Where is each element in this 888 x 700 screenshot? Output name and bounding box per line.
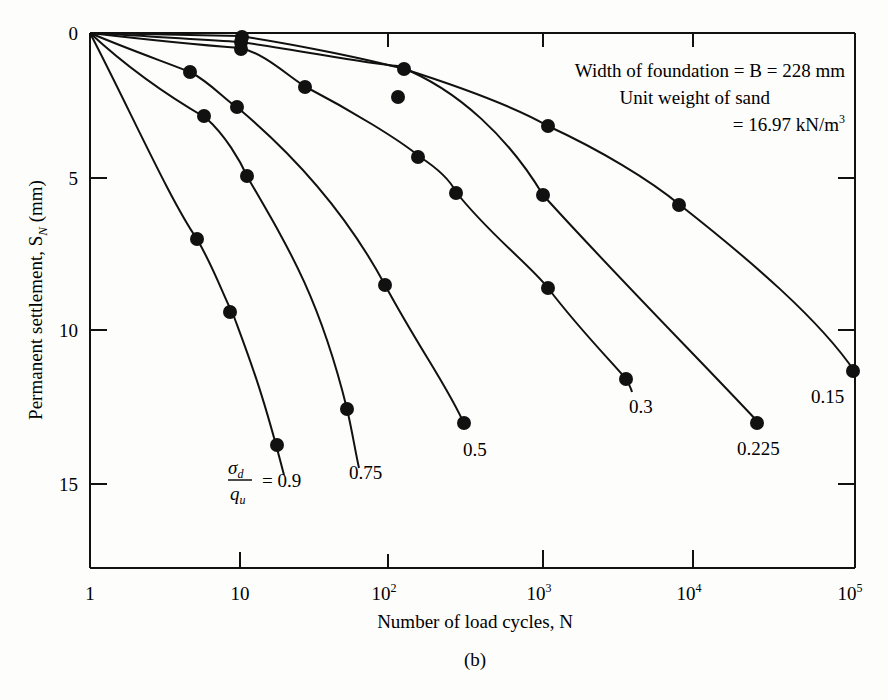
annotation-width: Width of foundation = B = 228 mm (575, 60, 846, 81)
point-0.15-1 (235, 30, 249, 44)
y-tick-10: 10 (59, 320, 78, 341)
point-0.5-3 (378, 278, 392, 292)
settlement-chart: 1 10 102 103 104 105 0 5 10 15 Number of… (0, 0, 888, 700)
y-tick-15: 15 (59, 474, 78, 495)
point-0.9-1 (190, 232, 204, 246)
y-tick-5: 5 (69, 168, 79, 189)
curve-label-0.9: = 0.9 (262, 470, 301, 491)
point-0.5-2 (230, 100, 244, 114)
curve-0.9 (90, 33, 284, 475)
point-0.225-3 (536, 188, 550, 202)
point-0.3-4 (449, 186, 463, 200)
point-0.75-2 (240, 169, 254, 183)
point-0.15-2 (397, 62, 411, 76)
x-tick-1e3: 103 (527, 581, 552, 604)
point-0.15-4 (672, 198, 686, 212)
curve-label-0.225: 0.225 (737, 438, 780, 459)
curve-label-0.5: 0.5 (463, 439, 487, 460)
point-0.225-2 (391, 90, 405, 104)
curve-label-0.3: 0.3 (629, 396, 653, 417)
curve-0.15 (90, 33, 855, 372)
ratio-denominator: qu (230, 483, 246, 507)
curve-label-0.15: 0.15 (811, 386, 844, 407)
x-tick-10: 10 (231, 583, 250, 604)
point-0.3-2 (298, 80, 312, 94)
point-0.9-3 (270, 438, 284, 452)
point-0.75-3 (340, 402, 354, 416)
point-0.5-1 (183, 65, 197, 79)
y-axis-title: Permanent settlement, SN (mm) (25, 180, 50, 420)
x-tick-1e2: 102 (372, 581, 397, 604)
point-0.15-5 (846, 364, 860, 378)
x-tick-1e5: 105 (838, 581, 863, 604)
point-0.15-3 (541, 119, 555, 133)
point-0.3-5 (541, 281, 555, 295)
curve-labels: σd qu = 0.9 0.75 0.5 0.3 0.225 0.15 (228, 386, 844, 507)
point-0.75-1 (197, 109, 211, 123)
annotation-unit-weight-value: = 16.97 kN/m3 (733, 112, 845, 135)
y-tick-0: 0 (69, 23, 79, 44)
x-axis-title: Number of load cycles, N (377, 611, 573, 632)
figure-caption: (b) (464, 649, 486, 671)
x-tick-labels: 1 10 102 103 104 105 (85, 581, 862, 604)
x-tick-1e4: 104 (677, 581, 702, 604)
annotation-block: Width of foundation = B = 228 mm Unit we… (575, 60, 846, 135)
point-0.9-2 (223, 305, 237, 319)
curve-0.3 (90, 33, 632, 392)
y-tick-labels: 0 5 10 15 (59, 23, 78, 495)
curve-label-0.75: 0.75 (349, 462, 382, 483)
point-0.5-4 (457, 416, 471, 430)
point-0.3-3 (411, 150, 425, 164)
x-tick-1: 1 (85, 583, 95, 604)
ratio-numerator: σd (228, 457, 244, 481)
point-0.3-6 (619, 372, 633, 386)
ratio-label: σd qu = 0.9 (228, 457, 301, 507)
x-axis-ticks (240, 33, 693, 568)
annotation-unit-weight: Unit weight of sand (620, 87, 771, 108)
point-0.225-4 (750, 416, 764, 430)
